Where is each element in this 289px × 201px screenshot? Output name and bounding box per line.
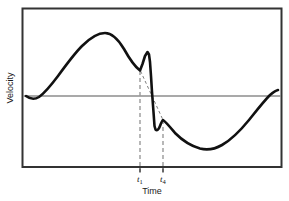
tick-label-t1: t1 [137, 174, 143, 185]
tick-label-t1-subscript: 1 [140, 178, 143, 185]
velocity-time-chart: Velocity Time t1 t4 [0, 0, 289, 201]
tick-label-t4: t4 [160, 174, 167, 185]
figure-container: Velocity Time t1 t4 [0, 0, 289, 201]
x-axis-label: Time [142, 186, 162, 196]
tick-label-t4-subscript: 4 [163, 178, 167, 185]
y-axis-label: Velocity [5, 72, 15, 104]
